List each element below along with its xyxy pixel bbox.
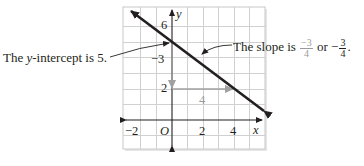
slope-annotation: The slope is −34 or −34.	[233, 38, 351, 59]
slope-fraction-gray: −34	[300, 38, 313, 59]
rise-label: −3	[151, 53, 164, 66]
slope-fraction: 34	[339, 38, 346, 59]
x-tick-neg2: −2	[125, 125, 138, 138]
graph-canvas	[0, 0, 364, 166]
origin-label: O	[160, 125, 169, 138]
run-label: 4	[199, 94, 205, 107]
y-tick-6: 6	[161, 19, 167, 32]
intercept-annotation: The y-intercept is 5.	[3, 51, 107, 64]
x-tick-4: 4	[230, 125, 236, 138]
grid-frame	[123, 7, 267, 151]
y-tick-2: 2	[161, 82, 167, 95]
x-tick-2: 2	[199, 125, 205, 138]
x-axis-label: x	[253, 124, 259, 137]
y-axis-label: y	[176, 8, 182, 21]
